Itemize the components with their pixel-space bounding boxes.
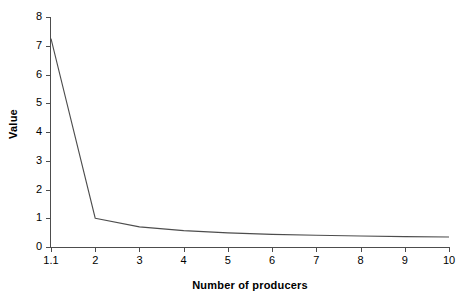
line-chart: Value 012345678 1.12345678910 Number of … bbox=[0, 0, 469, 303]
x-axis-title: Number of producers bbox=[51, 279, 449, 291]
series-layer bbox=[0, 0, 469, 303]
series-line-value bbox=[51, 39, 449, 237]
